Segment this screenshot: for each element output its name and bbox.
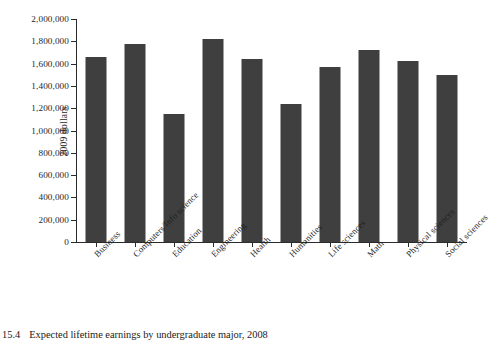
y-tick-label: 1,200,000 (31, 103, 69, 113)
plot-area: 0200,000400,000600,000800,0001,000,0001,… (76, 19, 466, 242)
y-tick-label: 1,000,000 (31, 126, 69, 136)
bar (319, 67, 340, 242)
y-tick-label: 600,000 (38, 170, 69, 180)
bar-slot (310, 19, 349, 242)
bar-slot (232, 19, 271, 242)
bar (397, 61, 418, 242)
y-tick-label: 0 (64, 237, 69, 247)
y-tick-label: 400,000 (38, 192, 69, 202)
y-tick-label: 1,400,000 (31, 81, 69, 91)
bar-slot (76, 19, 115, 242)
bar-slot (271, 19, 310, 242)
bar (358, 50, 379, 242)
caption-number: 15.4 (2, 329, 20, 340)
y-tick-label: 200,000 (38, 215, 69, 225)
bar-slot (388, 19, 427, 242)
y-tick-label: 800,000 (38, 148, 69, 158)
caption-text: Expected lifetime earnings by undergradu… (29, 329, 268, 340)
bar-slot (115, 19, 154, 242)
y-tick-label: 2,000,000 (31, 14, 69, 24)
bar (124, 44, 145, 242)
bar (85, 57, 106, 242)
y-tick-label: 1,800,000 (31, 36, 69, 46)
bar (280, 104, 301, 242)
bar (241, 59, 262, 242)
y-tick-mark (71, 242, 76, 243)
y-tick-label: 1,600,000 (31, 59, 69, 69)
bar-slot (349, 19, 388, 242)
bar (202, 39, 223, 242)
figure-caption: 15.4Expected lifetime earnings by underg… (2, 329, 268, 340)
bar-slot (193, 19, 232, 242)
